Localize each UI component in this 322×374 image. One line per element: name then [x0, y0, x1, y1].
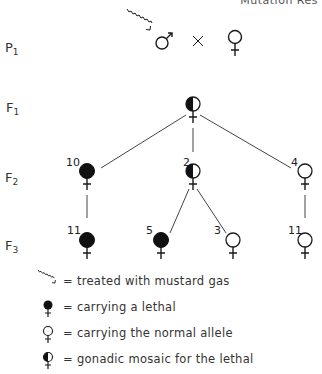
svg-text:4: 4 [291, 156, 298, 169]
f3-normal-female-2: 11 [288, 224, 312, 259]
f2-lethal-female: 10 [66, 156, 95, 190]
cross-symbol-icon [193, 36, 203, 46]
legend-item-treated: = treated with mustard gas [38, 270, 230, 288]
cut-off-header-text: Mutation Res [240, 0, 318, 7]
f3-lethal-female-2: 5 [146, 224, 169, 259]
half-filled-female-icon [44, 353, 53, 370]
f1-mosaic-female [186, 97, 200, 123]
legend-item-lethal: = carrying a lethal [44, 300, 176, 317]
svg-text:11: 11 [67, 224, 81, 237]
open-female-icon [44, 327, 53, 344]
svg-text:10: 10 [66, 156, 80, 169]
svg-text:F3: F3 [5, 238, 18, 255]
svg-text:= treated with mustard gas: = treated with mustard gas [63, 274, 230, 288]
generation-label-f2: F2 [5, 170, 18, 187]
legend-item-mosaic: = gonadic mosaic for the lethal [44, 352, 254, 369]
generation-label-f3: F3 [5, 238, 18, 255]
generation-label-f1: F1 [6, 100, 19, 117]
svg-text:= carrying the normal allele: = carrying the normal allele [63, 326, 233, 340]
mustard-gas-arrow-icon [127, 9, 152, 30]
legend-item-normal: = carrying the normal allele [44, 326, 233, 343]
female-symbol-icon [229, 31, 242, 57]
filled-female-icon [44, 301, 53, 318]
f2-mosaic-female: 2 [183, 156, 200, 190]
f3-normal-female-1: 3 [214, 224, 240, 259]
f2-normal-female: 4 [291, 156, 312, 190]
f3-lethal-female-1: 11 [67, 224, 95, 259]
legend: = treated with mustard gas = carrying a … [38, 270, 254, 369]
male-symbol-icon [156, 33, 172, 49]
svg-text:F1: F1 [6, 100, 19, 117]
svg-text:= carrying a lethal: = carrying a lethal [63, 300, 176, 314]
pedigree-diagram: P1 F1 F2 F3 10 [0, 0, 322, 374]
generation-label-p1: P1 [5, 40, 19, 57]
wavy-arrow-icon [38, 270, 55, 283]
svg-text:F2: F2 [5, 170, 18, 187]
svg-text:3: 3 [214, 224, 221, 237]
svg-text:= gonadic mosaic for the letha: = gonadic mosaic for the lethal [63, 352, 254, 366]
svg-text:5: 5 [146, 224, 153, 237]
svg-text:P1: P1 [5, 40, 19, 57]
